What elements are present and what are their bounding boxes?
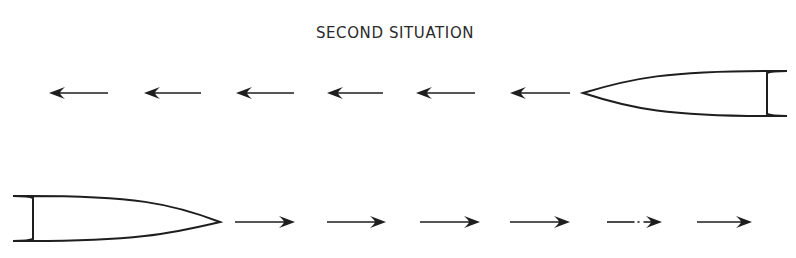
- arrow-right-icon: [607, 216, 662, 228]
- arrow-right-icon: [420, 216, 480, 228]
- arrow-right-icon: [510, 216, 570, 228]
- top-row-arrows: [49, 87, 570, 99]
- bottom-row-arrows: [235, 216, 752, 228]
- bottom-row-group: [13, 196, 752, 241]
- arrow-left-icon: [49, 87, 108, 99]
- hull-top-pointing-left: [583, 71, 787, 116]
- top-row-group: [49, 71, 787, 116]
- arrow-left-icon: [236, 87, 294, 99]
- arrow-right-icon: [327, 216, 386, 228]
- arrow-left-icon: [510, 87, 570, 99]
- arrow-right-icon: [697, 216, 752, 228]
- hull-bottom-pointing-right: [13, 196, 220, 241]
- arrow-left-icon: [416, 87, 475, 99]
- arrow-left-icon: [144, 87, 201, 99]
- diagram-canvas: [0, 0, 796, 258]
- arrow-left-icon: [327, 87, 383, 99]
- arrow-right-icon: [235, 216, 295, 228]
